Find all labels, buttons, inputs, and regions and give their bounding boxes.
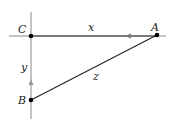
arrow-up-icon (29, 79, 34, 85)
label-a: A (150, 21, 159, 34)
label-y: y (20, 61, 28, 74)
segment-z (31, 35, 157, 100)
point-b (29, 98, 34, 103)
label-z: z (92, 70, 99, 83)
label-c: C (18, 23, 27, 36)
label-b: B (17, 94, 26, 107)
arrow-left-icon (125, 34, 131, 39)
label-x: x (88, 21, 95, 34)
triangle-diagram: C A B x y z (0, 0, 177, 129)
point-c (29, 34, 34, 39)
